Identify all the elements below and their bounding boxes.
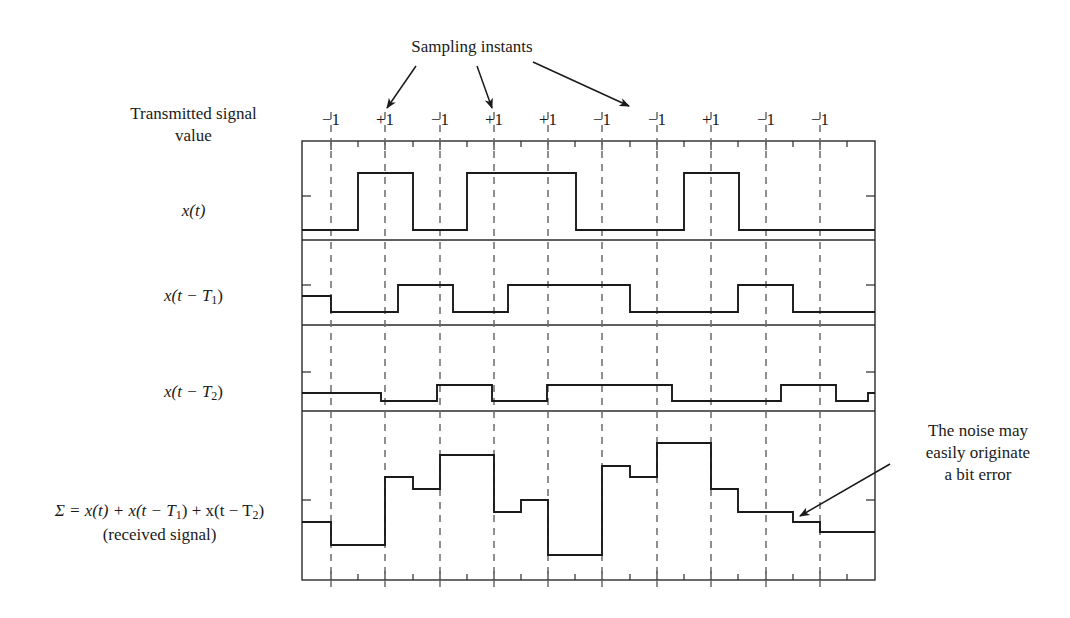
bit-error-note-line2: easily originate	[898, 442, 1058, 464]
bit-label-6: −1	[634, 110, 680, 130]
row-label-sum-suffix: )	[259, 501, 265, 520]
row-label-xt-text: x(t)	[182, 201, 206, 220]
sampling-instants-label: Sampling instants	[382, 36, 562, 58]
bit-label-7: +1	[688, 110, 734, 130]
row-label-transmitted-line1: Transmitted signal	[86, 103, 301, 125]
plot-frame	[302, 141, 875, 580]
row-label-sum-line2: (received signal)	[18, 524, 301, 546]
bit-label-1: +1	[362, 110, 408, 130]
row-label-transmitted: Transmitted signal value	[86, 103, 301, 147]
bit-label-2: −1	[417, 110, 463, 130]
bit-label-0: −1	[308, 110, 354, 130]
row-label-xt-t2-pre: x(t − T	[164, 382, 211, 401]
waveform-xt-t1	[302, 285, 875, 312]
waveform-xt	[302, 173, 875, 230]
top-axis-ticks	[331, 141, 847, 150]
row-label-transmitted-line2: value	[86, 125, 301, 147]
bit-error-arrow	[800, 464, 890, 516]
row-label-sum-mid: ) + x(t − T	[182, 501, 253, 520]
bit-label-5: −1	[579, 110, 625, 130]
bit-error-note: The noise may easily originate a bit err…	[898, 420, 1058, 485]
row-label-xt-t1: x(t − T1)	[86, 285, 301, 309]
bit-label-3: +1	[471, 110, 517, 130]
sampling-instant-arrows	[387, 62, 629, 108]
row-label-sum-line1: Σ = x(t) + x(t − T1) + x(t − T2)	[18, 500, 301, 524]
left-axis-ticks	[302, 196, 311, 500]
right-axis-ticks	[866, 196, 875, 500]
waveform-xt-t2	[302, 385, 875, 401]
row-label-xt-t1-pre: x(t − T	[164, 286, 211, 305]
bottom-axis-ticks	[331, 571, 847, 580]
row-label-xt-t2-post: )	[217, 382, 223, 401]
row-label-xt-t2: x(t − T2)	[86, 381, 301, 405]
bit-error-note-line3: a bit error	[898, 464, 1058, 486]
row-label-sum-prefix: Σ = x(t) + x(t − T	[55, 501, 176, 520]
figure-root: Sampling instants The noise may easily o…	[0, 0, 1070, 618]
row-label-sum: Σ = x(t) + x(t − T1) + x(t − T2) (receiv…	[18, 500, 301, 545]
bit-error-note-line1: The noise may	[898, 420, 1058, 442]
row-label-xt-t1-post: )	[217, 286, 223, 305]
bit-label-4: +1	[525, 110, 571, 130]
row-label-xt: x(t)	[86, 200, 301, 222]
waveform-sum	[302, 443, 875, 555]
bit-label-8: −1	[743, 110, 789, 130]
bit-label-9: −1	[797, 110, 843, 130]
